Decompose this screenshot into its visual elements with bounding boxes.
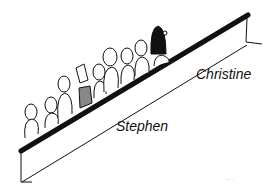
escalator-illustration: ~ ·: Christine Stephen	[0, 0, 275, 196]
escalator-drawing: ~ ·:	[0, 0, 275, 196]
artist-signature: ~ ·:	[226, 176, 235, 182]
christine-hair	[151, 26, 166, 54]
escalator-bottom-post	[21, 153, 32, 182]
person-body	[45, 113, 59, 128]
escalator-top-post	[246, 18, 262, 44]
person-body	[121, 65, 135, 84]
person-head	[135, 40, 147, 56]
person-head	[121, 48, 133, 64]
label-christine: Christine	[196, 66, 251, 82]
hair-bow	[163, 31, 167, 35]
person-body	[58, 93, 72, 118]
person-body	[25, 119, 39, 138]
person-head	[58, 76, 70, 92]
person-head	[93, 64, 105, 80]
person-head	[25, 104, 37, 120]
person-head	[45, 97, 57, 113]
person-head	[103, 48, 117, 66]
person-body	[104, 67, 119, 92]
label-stephen: Stephen	[116, 118, 168, 134]
person-body-hatched	[79, 86, 92, 108]
person-head	[76, 64, 88, 83]
